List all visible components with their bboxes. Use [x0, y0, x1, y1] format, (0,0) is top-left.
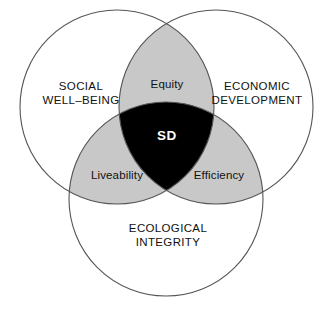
venn-diagram-canvas — [0, 0, 333, 317]
sustainable-development-venn-diagram: SOCIAL WELL–BEING ECONOMIC DEVELOPMENT E… — [0, 0, 333, 317]
